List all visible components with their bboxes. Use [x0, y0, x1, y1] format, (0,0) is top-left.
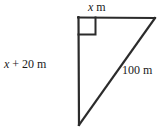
- left-side-unit: m: [37, 57, 46, 71]
- hypotenuse-label: 100 m: [122, 64, 152, 76]
- top-side-line: [78, 18, 155, 19]
- top-side-unit: m: [96, 0, 105, 14]
- left-side-line: [79, 17, 80, 125]
- top-side-label: x m: [88, 1, 106, 13]
- left-side-expression: + 20: [12, 57, 34, 71]
- right-angle-marker-icon: [79, 18, 96, 35]
- geometry-figure: x m x + 20 m 100 m: [0, 0, 165, 130]
- hypotenuse-value: 100: [122, 63, 140, 77]
- hypotenuse-unit: m: [143, 63, 152, 77]
- left-side-label: x + 20 m: [4, 58, 46, 70]
